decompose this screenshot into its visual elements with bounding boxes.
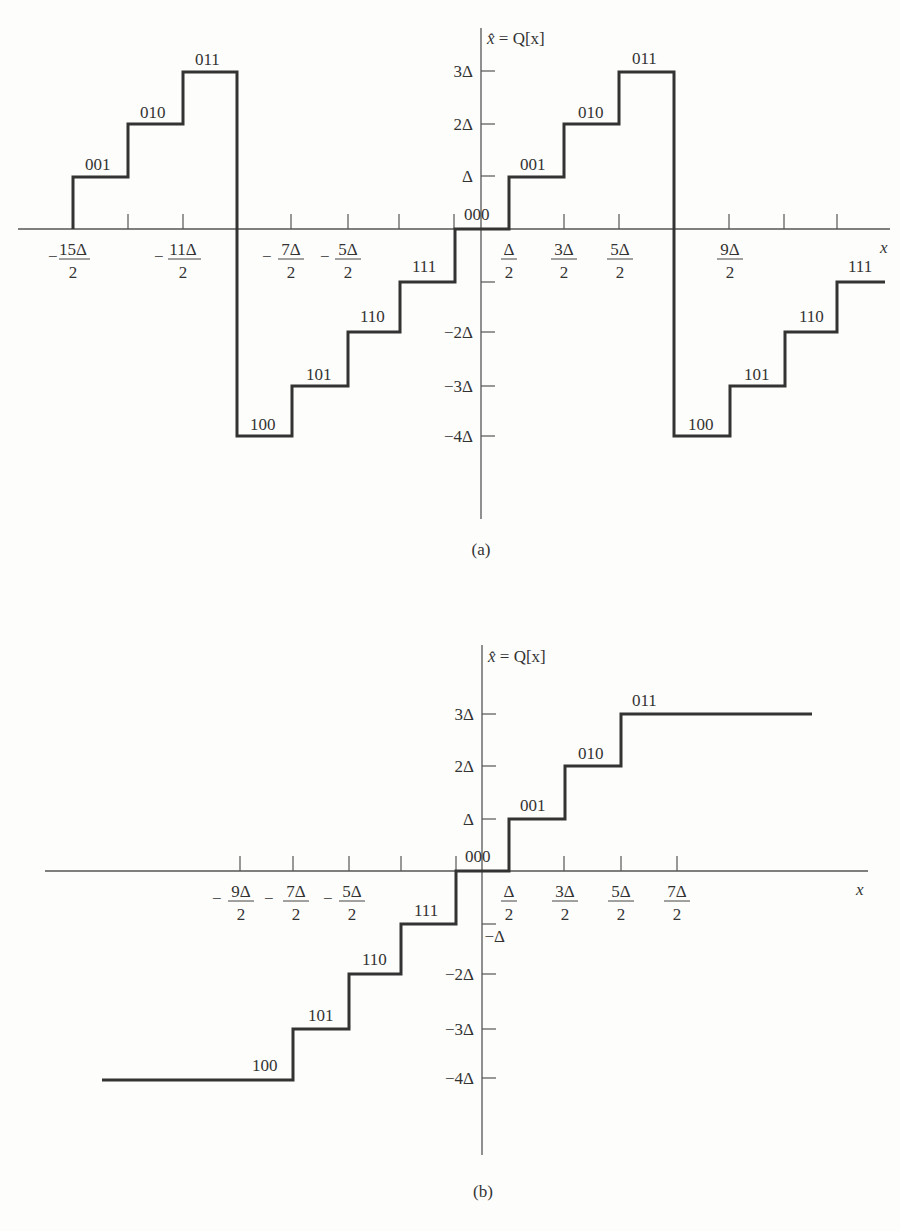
chart-a: x̂ = Q[x] x 3Δ 2Δ Δ −2Δ −3Δ −4Δ — [18, 28, 890, 559]
code-label: 010 — [140, 103, 166, 122]
quantizer-figure: x̂ = Q[x] x 3Δ 2Δ Δ −2Δ −3Δ −4Δ — [0, 0, 900, 1231]
caption-a: (a) — [472, 540, 491, 559]
svg-text:5Δ: 5Δ — [610, 240, 630, 259]
svg-text:−: − — [320, 247, 330, 266]
caption-b: (b) — [473, 1182, 493, 1201]
xtick-m7-a: − 7Δ 2 — [262, 240, 304, 282]
ytick-mdelta-b: −Δ — [484, 927, 505, 946]
ytick-3delta-b: 3Δ — [455, 705, 475, 724]
code-label: 100 — [250, 415, 276, 434]
code-label: 111 — [412, 257, 436, 276]
xtick-3-a: 3Δ 2 — [551, 240, 577, 282]
ytick-3delta-a: 3Δ — [454, 62, 474, 81]
svg-text:−: − — [48, 247, 58, 266]
xtick-5-b: 5Δ 2 — [608, 882, 634, 924]
code-label: 000 — [465, 847, 491, 866]
xtick-7-b: 7Δ 2 — [664, 882, 690, 924]
ytick-2delta-a: 2Δ — [454, 115, 474, 134]
svg-text:7Δ: 7Δ — [667, 882, 687, 901]
svg-text:2: 2 — [505, 263, 514, 282]
xtick-m11-a: − 11Δ 2 — [154, 240, 201, 282]
svg-text:7Δ: 7Δ — [286, 882, 306, 901]
svg-text:11Δ: 11Δ — [169, 240, 196, 259]
xtick-m7-b: − 7Δ 2 — [264, 882, 309, 924]
ytick-m3delta-a: −3Δ — [444, 377, 473, 396]
ytick-m4delta-a: −4Δ — [444, 427, 473, 446]
y-ticks-b — [482, 714, 496, 1078]
ytick-m2delta-a: −2Δ — [444, 323, 473, 342]
svg-text:2: 2 — [560, 263, 569, 282]
svg-text:2: 2 — [505, 905, 514, 924]
y-axis-label-a: x̂ = Q[x] — [486, 29, 545, 48]
code-label: 010 — [578, 103, 604, 122]
x-ticks-b — [240, 856, 677, 871]
code-label: 001 — [520, 155, 546, 174]
ytick-delta-b: Δ — [463, 810, 474, 829]
code-label: 101 — [306, 365, 332, 384]
code-label: 101 — [308, 1006, 334, 1025]
y-axis-label-b: x̂ = Q[x] — [487, 647, 546, 666]
code-label: 011 — [632, 691, 657, 710]
code-label: 010 — [578, 744, 604, 763]
svg-text:2: 2 — [287, 263, 296, 282]
code-label: 110 — [360, 307, 385, 326]
svg-text:2: 2 — [673, 905, 682, 924]
xtick-1-a: Δ 2 — [501, 240, 517, 282]
svg-text:3Δ: 3Δ — [554, 240, 574, 259]
svg-text:−: − — [323, 889, 333, 908]
svg-text:9Δ: 9Δ — [720, 240, 740, 259]
code-label: 001 — [520, 796, 546, 815]
code-label: 011 — [632, 49, 657, 68]
ytick-2delta-b: 2Δ — [455, 757, 475, 776]
svg-text:9Δ: 9Δ — [231, 882, 251, 901]
svg-text:15Δ: 15Δ — [59, 240, 87, 259]
xtick-9-a: 9Δ 2 — [717, 240, 743, 282]
svg-text:3Δ: 3Δ — [555, 882, 575, 901]
svg-text:5Δ: 5Δ — [338, 240, 358, 259]
code-label: 000 — [464, 205, 490, 224]
code-label: 011 — [195, 50, 220, 69]
svg-text:Δ: Δ — [504, 240, 515, 259]
code-label: 110 — [799, 307, 824, 326]
ytick-delta-a: Δ — [462, 167, 473, 186]
ytick-m4delta-b: −4Δ — [445, 1069, 474, 1088]
svg-text:2: 2 — [237, 905, 246, 924]
xtick-m5-a: − 5Δ 2 — [320, 240, 361, 282]
xtick-m15-a: − 15Δ 2 — [48, 240, 90, 282]
code-label: 100 — [252, 1056, 278, 1075]
xtick-5-a: 5Δ 2 — [607, 240, 633, 282]
code-label: 101 — [744, 365, 770, 384]
svg-text:2: 2 — [344, 263, 353, 282]
svg-text:2: 2 — [561, 905, 570, 924]
x-axis-label-a: x — [879, 238, 888, 257]
x-axis-label-b: x — [855, 880, 864, 899]
svg-text:5Δ: 5Δ — [611, 882, 631, 901]
svg-text:7Δ: 7Δ — [281, 240, 301, 259]
svg-text:−: − — [154, 247, 164, 266]
code-label: 111 — [414, 901, 438, 920]
svg-text:2: 2 — [726, 263, 735, 282]
svg-text:2: 2 — [617, 905, 626, 924]
svg-text:2: 2 — [292, 905, 301, 924]
code-label: 110 — [362, 950, 387, 969]
svg-text:−: − — [262, 247, 272, 266]
svg-text:2: 2 — [616, 263, 625, 282]
svg-text:−: − — [212, 889, 222, 908]
svg-text:2: 2 — [69, 263, 78, 282]
code-label: 100 — [688, 415, 714, 434]
code-label: 111 — [848, 257, 872, 276]
xtick-m5-b: − 5Δ 2 — [323, 882, 365, 924]
ytick-m3delta-b: −3Δ — [445, 1020, 474, 1039]
svg-text:−: − — [264, 889, 274, 908]
code-label: 001 — [85, 155, 111, 174]
svg-text:2: 2 — [179, 263, 188, 282]
y-ticks-a — [481, 71, 495, 436]
chart-b: x̂ = Q[x] x 3Δ 2Δ Δ −Δ −2Δ −3Δ −4Δ — [45, 645, 868, 1201]
xtick-3-b: 3Δ 2 — [552, 882, 578, 924]
svg-text:Δ: Δ — [504, 882, 515, 901]
svg-text:5Δ: 5Δ — [342, 882, 362, 901]
xtick-m9-b: − 9Δ 2 — [212, 882, 254, 924]
xtick-1-b: Δ 2 — [501, 882, 517, 924]
svg-text:2: 2 — [348, 905, 357, 924]
ytick-m2delta-b: −2Δ — [445, 965, 474, 984]
